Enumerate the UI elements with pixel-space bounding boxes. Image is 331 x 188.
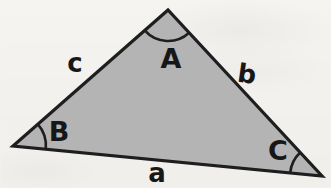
triangle-figure: A B C c b a — [0, 0, 331, 188]
side-label-c: c — [67, 48, 82, 78]
side-label-a: a — [148, 158, 166, 188]
angle-label-C: C — [268, 135, 288, 166]
side-label-b: b — [236, 58, 259, 90]
triangle-svg: A B C c b a — [0, 0, 331, 188]
angle-label-B: B — [49, 116, 70, 147]
angle-label-A: A — [161, 43, 182, 74]
